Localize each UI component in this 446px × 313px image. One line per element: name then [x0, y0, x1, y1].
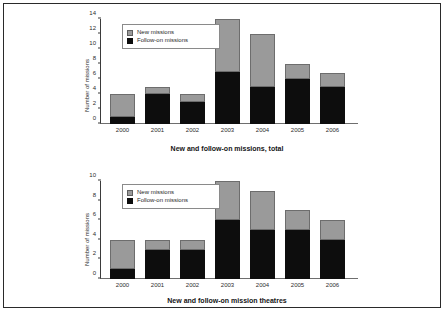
x-tick-label-2006: 2006 — [316, 127, 350, 134]
bar-segment-new — [180, 94, 205, 102]
legend-swatch-followon-missions — [127, 38, 133, 44]
legend-swatch-new-missions — [127, 190, 133, 196]
x-tick-label-2003: 2003 — [211, 282, 245, 289]
legend-label-new-missions: New missions — [137, 29, 174, 36]
y-tick-mark — [98, 78, 101, 79]
bar-segment-followon — [285, 230, 310, 279]
y-tick-label: 2 — [93, 100, 100, 106]
y-tick-mark — [98, 108, 101, 109]
y-tick-mark — [98, 180, 101, 181]
chart-mission-theatres: Number of missions 200020012002200320042… — [4, 156, 442, 308]
y-tick-label: 6 — [93, 211, 100, 217]
legend-item-followon-missions: Follow-on missions — [127, 37, 214, 44]
y-tick-label: 0 — [93, 270, 100, 276]
bar-segment-followon — [215, 220, 240, 279]
bar-segment-followon — [145, 94, 170, 124]
y-tick-mark — [98, 33, 101, 34]
bar-2004: 2004 — [250, 191, 275, 279]
y-tick-mark — [98, 238, 101, 239]
x-tick-label-2001: 2001 — [141, 282, 175, 289]
x-tick-label-2002: 2002 — [176, 127, 210, 134]
x-tick-label-2002: 2002 — [176, 282, 210, 289]
bar-2001: 2001 — [145, 87, 170, 125]
bar-2001: 2001 — [145, 240, 170, 279]
bar-2000: 2000 — [110, 94, 135, 124]
bar-segment-new — [110, 94, 135, 117]
bar-segment-followon — [110, 117, 135, 125]
bar-segment-followon — [145, 250, 170, 279]
y-tick-label: 4 — [93, 231, 100, 237]
y-tick-label: 2 — [93, 250, 100, 256]
bar-segment-followon — [215, 72, 240, 125]
x-tick-label-2004: 2004 — [246, 282, 280, 289]
bar-2006: 2006 — [320, 73, 345, 124]
y-tick-mark — [98, 199, 101, 200]
x-tick-label-2000: 2000 — [106, 127, 140, 134]
bar-segment-new — [250, 34, 275, 87]
legend-swatch-new-missions — [127, 30, 133, 36]
x-tick-label-2004: 2004 — [246, 127, 280, 134]
bar-2000: 2000 — [110, 240, 135, 279]
x-tick-label-2003: 2003 — [211, 127, 245, 134]
legend-label-followon-missions: Follow-on missions — [137, 197, 188, 204]
y-tick-mark — [98, 93, 101, 94]
y-tick-mark — [98, 219, 101, 220]
y-tick-label: 0 — [93, 115, 100, 121]
x-tick-label-2000: 2000 — [106, 282, 140, 289]
bar-segment-new — [110, 240, 135, 269]
y-tick-mark — [98, 63, 101, 64]
bar-segment-followon — [285, 79, 310, 124]
legend-top: New missions Follow-on missions — [122, 24, 220, 49]
bar-segment-followon — [180, 102, 205, 125]
legend-label-followon-missions: Follow-on missions — [137, 37, 188, 44]
y-tick-mark — [98, 48, 101, 49]
legend-label-new-missions: New missions — [137, 189, 174, 196]
x-tick-label-2001: 2001 — [141, 127, 175, 134]
bar-segment-new — [320, 220, 345, 240]
y-tick-label: 8 — [93, 192, 100, 198]
bar-segment-new — [145, 87, 170, 95]
bar-segment-followon — [320, 87, 345, 125]
bar-2006: 2006 — [320, 220, 345, 279]
legend-bottom: New missions Follow-on missions — [122, 184, 220, 209]
bar-segment-new — [180, 240, 205, 250]
bar-segment-followon — [320, 240, 345, 279]
legend-item-new-missions: New missions — [127, 29, 214, 36]
y-tick-mark — [98, 123, 101, 124]
bar-segment-new — [285, 210, 310, 230]
bar-segment-new — [145, 240, 170, 250]
bar-segment-new — [285, 64, 310, 79]
y-tick-label: 12 — [89, 25, 100, 31]
bar-segment-followon — [250, 87, 275, 125]
y-tick-label: 10 — [89, 172, 100, 178]
bar-segment-followon — [110, 269, 135, 279]
y-tick-label: 8 — [93, 55, 100, 61]
y-tick-mark — [98, 18, 101, 19]
bar-segment-new — [250, 191, 275, 230]
y-tick-mark — [98, 258, 101, 259]
x-tick-label-2006: 2006 — [316, 282, 350, 289]
bar-2005: 2005 — [285, 210, 310, 279]
y-tick-label: 4 — [93, 85, 100, 91]
y-tick-mark — [98, 278, 101, 279]
legend-item-new-missions: New missions — [127, 189, 214, 196]
chart-title-top: New and follow-on missions, total — [97, 144, 357, 153]
figure-frame: Number of missions 200020012002200320042… — [3, 3, 441, 308]
chart-title-bottom: New and follow-on mission theatres — [97, 296, 357, 305]
bar-2002: 2002 — [180, 240, 205, 279]
y-tick-label: 10 — [89, 40, 100, 46]
bar-segment-followon — [180, 250, 205, 279]
x-tick-label-2005: 2005 — [281, 282, 315, 289]
bar-2005: 2005 — [285, 64, 310, 124]
legend-item-followon-missions: Follow-on missions — [127, 197, 214, 204]
chart-missions-total: Number of missions 200020012002200320042… — [4, 4, 442, 156]
bar-segment-new — [320, 73, 345, 87]
y-tick-label: 6 — [93, 70, 100, 76]
bar-2004: 2004 — [250, 34, 275, 124]
x-tick-label-2005: 2005 — [281, 127, 315, 134]
y-axis-label-top: Number of missions — [84, 59, 90, 112]
y-tick-label: 14 — [89, 10, 100, 16]
legend-swatch-followon-missions — [127, 198, 133, 204]
bar-segment-followon — [250, 230, 275, 279]
bar-2002: 2002 — [180, 94, 205, 124]
